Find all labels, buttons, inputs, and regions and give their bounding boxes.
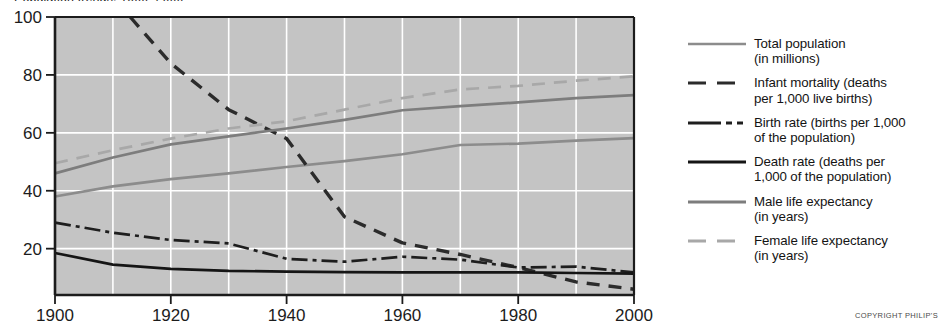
- x-axis-tick-label: 1960: [383, 306, 421, 325]
- copyright-notice: COPYRIGHT PHILIP'S: [855, 311, 938, 320]
- legend-key-male-life-expectancy: [688, 195, 746, 213]
- x-axis-tick-label: 2000: [615, 306, 653, 325]
- x-axis-tick-label: 1920: [152, 306, 190, 325]
- legend-label-line2: (in years): [754, 248, 888, 263]
- legend-key-total-population: [688, 37, 746, 55]
- legend-item-birth-rate: Birth rate (births per 1,000 of the popu…: [688, 115, 946, 145]
- legend-label-line2: (in millions): [754, 51, 846, 66]
- legend-label-line1: Female life expectancy: [754, 233, 888, 248]
- legend-item-total-population: Total population (in millions): [688, 36, 946, 66]
- line-chart-svg: 20406080100190019201940196019802000: [0, 0, 680, 334]
- legend-item-infant-mortality: Infant mortality (deaths per 1,000 live …: [688, 75, 946, 105]
- legend-key-infant-mortality: [688, 76, 746, 94]
- legend-key-birth-rate: [688, 116, 746, 134]
- legend-label-line1: Total population: [754, 36, 846, 51]
- population-trends-figure: Population trends, 1900–2000 20406080100…: [0, 0, 946, 334]
- legend-key-female-life-expectancy: [688, 234, 746, 252]
- legend-label-death-rate: Death rate (deaths per 1,000 of the popu…: [754, 154, 891, 184]
- y-axis-tick-label: 20: [23, 240, 42, 259]
- legend-label-female-life-expectancy: Female life expectancy (in years): [754, 233, 888, 263]
- legend-item-death-rate: Death rate (deaths per 1,000 of the popu…: [688, 154, 946, 184]
- y-axis-tick-label: 60: [23, 124, 42, 143]
- x-axis-tick-label: 1980: [499, 306, 537, 325]
- chart-plot-area: 20406080100190019201940196019802000: [0, 0, 680, 334]
- legend-label-line1: Male life expectancy: [754, 194, 872, 209]
- legend-label-line2: 1,000 of the population): [754, 169, 891, 184]
- y-axis-tick-label: 100: [14, 8, 42, 27]
- legend-label-line1: Infant mortality (deaths: [754, 75, 887, 90]
- legend-label-infant-mortality: Infant mortality (deaths per 1,000 live …: [754, 75, 887, 105]
- x-axis-tick-label: 1900: [36, 306, 74, 325]
- chart-legend: Total population (in millions) Infant mo…: [688, 36, 946, 272]
- y-axis-tick-label: 40: [23, 182, 42, 201]
- legend-label-birth-rate: Birth rate (births per 1,000 of the popu…: [754, 115, 906, 145]
- y-axis-tick-label: 80: [23, 66, 42, 85]
- legend-label-line2: of the population): [754, 130, 906, 145]
- legend-label-line2: per 1,000 live births): [754, 91, 887, 106]
- legend-item-male-life-expectancy: Male life expectancy (in years): [688, 194, 946, 224]
- legend-label-male-life-expectancy: Male life expectancy (in years): [754, 194, 872, 224]
- x-axis-tick-label: 1940: [268, 306, 306, 325]
- legend-item-female-life-expectancy: Female life expectancy (in years): [688, 233, 946, 263]
- legend-label-total-population: Total population (in millions): [754, 36, 846, 66]
- legend-key-death-rate: [688, 155, 746, 173]
- legend-label-line2: (in years): [754, 209, 872, 224]
- legend-label-line1: Birth rate (births per 1,000: [754, 115, 906, 130]
- legend-label-line1: Death rate (deaths per: [754, 154, 885, 169]
